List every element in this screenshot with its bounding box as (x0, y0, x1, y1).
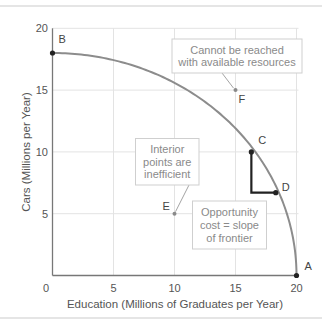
y-axis-title: Cars (Millions per Year) (20, 92, 32, 212)
point-d (273, 190, 278, 195)
y-tick-label: 20 (36, 22, 48, 34)
point-a (294, 273, 299, 278)
x-tick-label: 5 (110, 282, 116, 294)
leader-line (222, 73, 234, 88)
point-label-f: F (239, 93, 246, 105)
point-label-d: D (282, 181, 290, 193)
note-text: Opportunity (201, 206, 258, 218)
x-axis-title: Education (Millions of Graduates per Yea… (67, 298, 283, 310)
unreachable-note: Cannot be reachedwith available resource… (172, 39, 302, 88)
x-tick-label: 20 (290, 282, 302, 294)
point-b (50, 50, 55, 55)
leader-line (176, 185, 190, 212)
point-label-c: C (258, 134, 266, 146)
note-text: cost = slope (200, 219, 259, 231)
point-label-b: B (59, 33, 66, 45)
point-label-e: E (163, 200, 170, 212)
x-tick-label: 10 (168, 282, 180, 294)
point-e (173, 212, 177, 216)
x-tick-label: 15 (229, 282, 241, 294)
point-label-a: A (305, 260, 313, 272)
opportunity-cost-note: Opportunitycost = slopeof frontier (193, 201, 267, 249)
point-c (249, 149, 254, 154)
note-text: of frontier (206, 232, 253, 244)
opportunity-cost-triangle (251, 152, 275, 193)
ppf-chart: 051015205101520 Education (Millions of G… (0, 0, 328, 323)
note-text: inefficient (144, 168, 190, 180)
note-text: points are (143, 156, 191, 168)
y-tick-label: 5 (42, 208, 48, 220)
y-tick-label: 15 (36, 84, 48, 96)
note-text: Interior (150, 143, 185, 155)
note-text: Cannot be reached (190, 44, 284, 56)
annotation-boxes: Cannot be reachedwith available resource… (136, 39, 303, 249)
y-tick-label: 10 (36, 146, 48, 158)
x-tick-label: 0 (43, 282, 49, 294)
note-text: with available resources (177, 56, 296, 68)
point-f (234, 88, 238, 92)
